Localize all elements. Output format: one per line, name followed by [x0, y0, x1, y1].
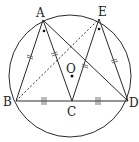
label-a: A — [35, 6, 45, 20]
segment-ec — [72, 19, 99, 101]
label-e: E — [98, 5, 107, 19]
label-c: C — [67, 105, 76, 119]
tick-ac — [51, 52, 58, 56]
angle-dot-e — [98, 28, 101, 31]
angle-dot-a — [43, 30, 46, 33]
segment-ab — [16, 20, 43, 101]
tick-ed — [111, 59, 118, 63]
geometry-diagram: A E B C D O — [0, 0, 139, 142]
tick-ab — [27, 55, 33, 59]
label-b: B — [3, 95, 12, 109]
label-o: O — [66, 62, 76, 76]
label-d: D — [129, 96, 139, 110]
